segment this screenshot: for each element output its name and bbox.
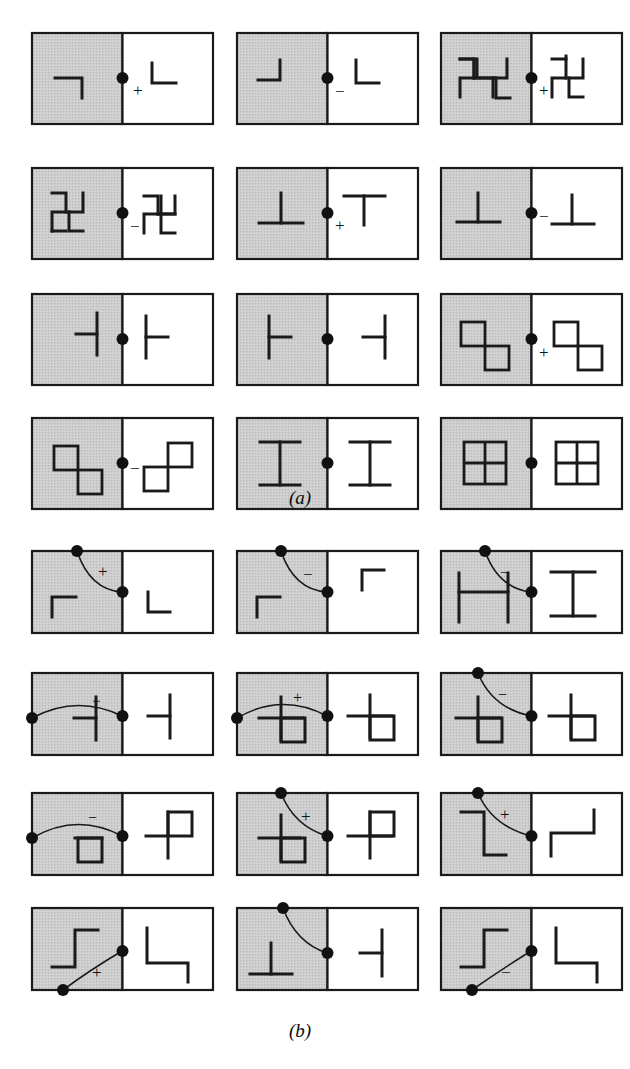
axis-dot — [231, 712, 243, 724]
axis-dot — [479, 545, 491, 557]
sign-plus: + — [98, 562, 108, 581]
sign-plus: + — [92, 963, 102, 982]
cell-a-0-0: + — [32, 33, 213, 124]
axis-dot — [526, 207, 538, 219]
cell-a-2-2: + — [441, 294, 622, 385]
axis-dot — [26, 832, 38, 844]
cell-a-1-1: + — [237, 168, 418, 259]
sign-minus: − — [130, 459, 140, 478]
axis-dot — [322, 207, 334, 219]
sign-plus: + — [301, 807, 311, 826]
sign-minus: − — [130, 217, 140, 236]
axis-dot — [117, 457, 129, 469]
axis-dot — [526, 945, 538, 957]
panel-b-label: (b) — [270, 1020, 330, 1042]
axis-dot — [117, 333, 129, 345]
axis-dot — [117, 586, 129, 598]
sign-plus: + — [133, 81, 143, 100]
sign-minus: − — [335, 82, 345, 101]
sign-plus: + — [293, 689, 302, 706]
cell-a-0-2: + — [441, 33, 622, 124]
axis-dot — [117, 207, 129, 219]
axis-dot — [322, 333, 334, 345]
sign-plus: + — [500, 805, 510, 824]
cell-b-2-2: + — [441, 787, 622, 875]
axis-dot — [322, 457, 334, 469]
cell-a-0-1: − — [237, 33, 418, 124]
sign-plus: + — [335, 216, 345, 235]
axis-dot — [526, 72, 538, 84]
sign-minus: − — [92, 693, 100, 709]
axis-dot — [275, 787, 287, 799]
cell-a-3-0: − — [32, 418, 213, 509]
axis-dot — [26, 712, 38, 724]
sign-minus: − — [539, 207, 549, 226]
cell-b-1-2: − — [441, 667, 622, 755]
axis-dot — [322, 72, 334, 84]
cell-a-1-2: − — [441, 168, 622, 259]
axis-dot — [277, 902, 289, 914]
axis-dot — [322, 830, 334, 842]
sign-minus: − — [498, 686, 507, 703]
axis-dot — [322, 586, 334, 598]
axis-dot — [117, 710, 129, 722]
cell-b-3-0: + — [32, 908, 213, 996]
axis-dot — [526, 710, 538, 722]
cell-a-2-0 — [32, 294, 213, 385]
sign-minus: − — [500, 563, 510, 582]
symmetry-diagram-figure: + − — [0, 0, 630, 1069]
cell-b-0-0: + — [32, 545, 213, 633]
sign-plus: + — [539, 343, 549, 362]
axis-dot — [526, 333, 538, 345]
cell-b-1-0: − — [26, 673, 213, 755]
cell-a-1-0: − — [32, 168, 213, 259]
axis-dot — [466, 984, 478, 996]
sign-plus: + — [539, 81, 549, 100]
cell-b-3-2: − — [441, 908, 622, 996]
axis-dot — [117, 830, 129, 842]
axis-dot — [526, 457, 538, 469]
cell-b-3-1 — [237, 902, 418, 990]
cell-a-3-2 — [441, 418, 622, 509]
sign-minus: − — [88, 809, 97, 826]
axis-dot — [526, 586, 538, 598]
axis-dot — [322, 710, 334, 722]
axis-dot — [322, 947, 334, 959]
sign-minus: − — [303, 565, 313, 584]
axis-dot — [117, 72, 129, 84]
axis-dot — [526, 830, 538, 842]
cell-b-0-2: − — [441, 545, 622, 633]
cell-a-2-1 — [237, 294, 418, 385]
cell-b-0-1: − — [237, 545, 418, 633]
axis-dot — [117, 945, 129, 957]
cell-b-1-1: + — [231, 673, 418, 755]
cell-b-2-0: − — [26, 793, 213, 875]
axis-dot — [472, 787, 484, 799]
axis-dot — [275, 545, 287, 557]
axis-dot — [472, 667, 484, 679]
axis-dot — [71, 545, 83, 557]
axis-dot — [57, 984, 69, 996]
sign-minus: − — [501, 963, 511, 982]
cell-b-2-1: + — [237, 787, 418, 875]
panel-a-label: (a) — [270, 487, 330, 509]
